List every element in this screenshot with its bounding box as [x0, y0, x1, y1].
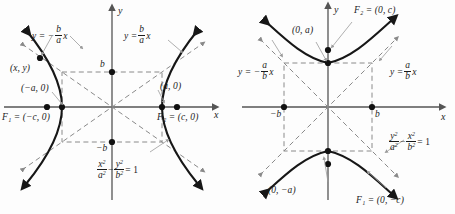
dot-vertex-left: [59, 104, 65, 110]
asymptote-right-den: a: [138, 36, 145, 46]
hyperbola-figure: y x y = −bax y =bax (x, y) (−a, 0) (a, 0…: [0, 0, 455, 214]
x-axis-label: x: [441, 112, 446, 122]
dot-point-xy: [37, 55, 43, 61]
leader-focus-2: [332, 22, 352, 47]
eq-den1-exp: 2: [395, 142, 398, 148]
dot-focus-2: [325, 47, 331, 53]
dot-vertex-bottom: [325, 148, 331, 154]
eq-num1-exp: 2: [395, 131, 398, 137]
eq-operator: −: [400, 137, 405, 147]
equation-horizontal: x2a2−y2b2= 1: [96, 160, 138, 182]
asymptote-right-var: x: [146, 31, 150, 41]
dot-vertex-right: [159, 104, 165, 110]
equation-vertical: y2a2−x2b2= 1: [388, 132, 430, 154]
asymptote-right-label: y =bax: [124, 26, 151, 47]
eq-num1-exp: 2: [103, 159, 106, 165]
asymptote-right-num: b: [138, 25, 145, 36]
box-right-label: b: [375, 110, 380, 120]
y-axis-label: y: [334, 5, 339, 15]
leader-asymptote-left: [272, 40, 282, 56]
asymptote-left-lhs: y = −: [32, 31, 54, 41]
asymptote-left-den: b: [261, 72, 268, 82]
asymptote-left-var: x: [63, 31, 67, 41]
asymptote-right-lhs: y =: [124, 31, 137, 41]
leader-focus-1: [368, 172, 386, 188]
vertex-bottom-label: (0, −a): [268, 186, 296, 196]
asymptote-right-label: y =abx: [390, 62, 417, 83]
box-top-label: b: [100, 60, 105, 70]
panel-horizontal-hyperbola: y x y = −bax y =bax (x, y) (−a, 0) (a, 0…: [0, 0, 228, 214]
x-axis-label: x: [214, 110, 219, 120]
eq-rhs: = 1: [417, 137, 430, 147]
dot-focus-1: [44, 104, 50, 110]
panel-vertical-hyperbola: y x F₂ = (0, c) (0, a) y = −abx y =abx −…: [228, 0, 455, 214]
vertex-top-label: (0, a): [292, 26, 313, 36]
eq-den2-exp: 2: [412, 142, 415, 148]
eq-den2-exp: 2: [120, 170, 123, 176]
asymptote-left-den: a: [55, 36, 62, 46]
asymptote-left-lhs: y = −: [238, 67, 260, 77]
eq-operator: −: [108, 165, 113, 175]
eq-den1-exp: 2: [103, 170, 106, 176]
leader-asymptote-left-2: [70, 36, 82, 48]
eq-rhs: = 1: [125, 165, 138, 175]
dot-box-bottom: [109, 139, 115, 145]
leader-vertex-top: [316, 42, 326, 60]
asymptote-right-num: a: [404, 61, 411, 72]
eq-num2-exp: 2: [120, 159, 123, 165]
asymptote-left-label: y = −bax: [32, 26, 67, 47]
asymptote-right-lhs: y =: [390, 67, 403, 77]
focus-2-label: F₂ = (0, c): [354, 6, 395, 16]
eq-num2-exp: 2: [412, 131, 415, 137]
point-xy-label: (x, y): [10, 64, 30, 74]
dot-vertex-top: [325, 60, 331, 66]
focus-1-label: F₁ = (−c, 0): [2, 113, 50, 123]
dot-focus-1: [325, 161, 331, 167]
dot-box-left: [281, 104, 287, 110]
box-left-label: −b: [270, 110, 281, 120]
leader-asymptote-right: [168, 40, 182, 52]
focus-1-label: F₁ = (0, −c): [356, 196, 404, 206]
dot-box-top: [109, 69, 115, 75]
vertex-left-label: (−a, 0): [21, 84, 49, 94]
dot-focus-2: [174, 104, 180, 110]
asymptote-left-num: a: [261, 61, 268, 72]
asymptote-left-label: y = −abx: [238, 62, 273, 83]
asymptote-left-num: b: [55, 25, 62, 36]
asymptote-right-den: b: [404, 72, 411, 82]
y-axis-label: y: [118, 6, 123, 16]
vertical-hyperbola-plot: [228, 0, 455, 214]
asymptote-left-var: x: [269, 67, 273, 77]
vertex-right-label: (a, 0): [160, 82, 181, 92]
focus-2-label: F₂ = (c, 0): [157, 113, 198, 123]
asymptote-right-var: x: [412, 67, 416, 77]
box-bottom-label: −b: [96, 144, 107, 154]
